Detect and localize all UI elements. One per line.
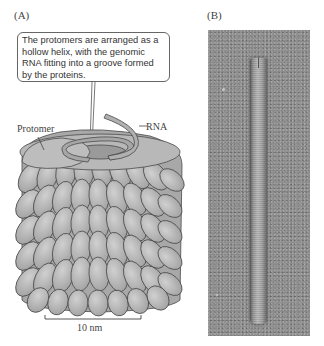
protomer-cylinder [11, 130, 189, 318]
electron-micrograph [208, 30, 310, 336]
speck [216, 294, 218, 296]
rod-end-groove [258, 58, 259, 68]
protomer-label: Protomer [17, 123, 54, 134]
virus-helix-illustration [0, 0, 200, 346]
rna-label: RNA [146, 121, 167, 132]
scale-bar-label: 10 nm [77, 322, 102, 333]
panel-b-label: (B) [207, 9, 222, 21]
virus-rod [250, 58, 267, 324]
scale-bar [45, 315, 141, 319]
speck [222, 88, 225, 91]
